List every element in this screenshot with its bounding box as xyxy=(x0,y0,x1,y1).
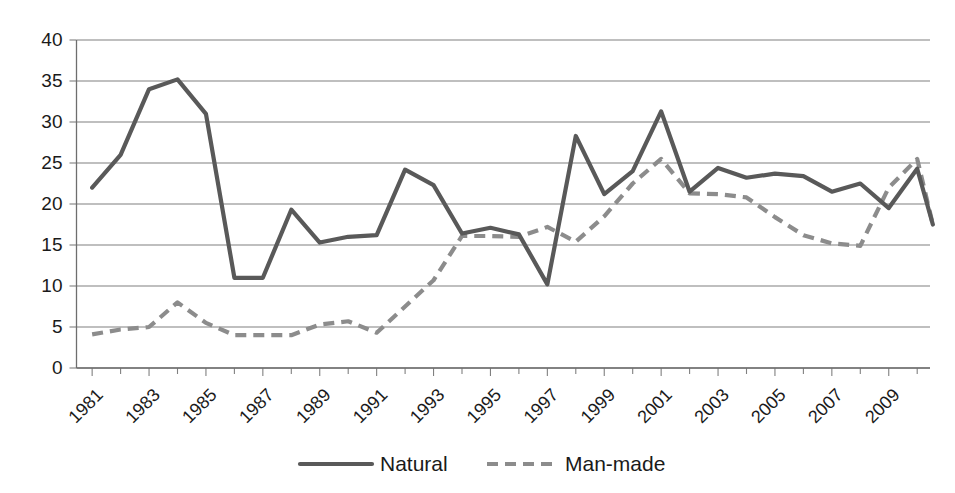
y-axis-labels: 0510152025303540 xyxy=(41,29,62,378)
tickmarks-group xyxy=(70,40,918,376)
y-tick-label: 10 xyxy=(41,275,62,296)
gridlines-group xyxy=(77,40,931,368)
series-line-natural xyxy=(92,79,933,284)
x-tick-label: 1997 xyxy=(520,385,562,427)
chart-legend: Natural Man-made xyxy=(300,452,665,475)
y-tick-label: 5 xyxy=(52,316,63,337)
x-tick-label: 2009 xyxy=(861,385,903,427)
y-tick-label: 15 xyxy=(41,234,62,255)
x-tick-label: 2007 xyxy=(804,385,846,427)
x-tick-label: 1991 xyxy=(349,385,391,427)
y-tick-label: 30 xyxy=(41,111,62,132)
y-tick-label: 25 xyxy=(41,152,62,173)
x-tick-label: 1995 xyxy=(463,385,505,427)
x-tick-label: 1999 xyxy=(577,385,619,427)
y-tick-label: 35 xyxy=(41,70,62,91)
x-tick-label: 1987 xyxy=(235,385,277,427)
chart-svg: 0510152025303540 19811983198519871989199… xyxy=(0,0,955,493)
y-tick-label: 20 xyxy=(41,193,62,214)
y-tick-label: 40 xyxy=(41,29,62,50)
x-tick-label: 1985 xyxy=(178,385,220,427)
x-tick-label: 1993 xyxy=(406,385,448,427)
y-tick-label: 0 xyxy=(52,357,63,378)
line-chart: 0510152025303540 19811983198519871989199… xyxy=(0,0,955,493)
x-tick-label: 2001 xyxy=(634,385,676,427)
x-tick-label: 1989 xyxy=(292,385,334,427)
x-axis-labels: 1981198319851987198919911993199519971999… xyxy=(65,385,904,427)
x-tick-label: 2005 xyxy=(747,385,789,427)
legend-label-natural: Natural xyxy=(380,452,448,475)
x-tick-label: 1983 xyxy=(121,385,163,427)
legend-label-man-made: Man-made xyxy=(565,452,665,475)
x-tick-label: 1981 xyxy=(65,385,107,427)
x-tick-label: 2003 xyxy=(690,385,732,427)
